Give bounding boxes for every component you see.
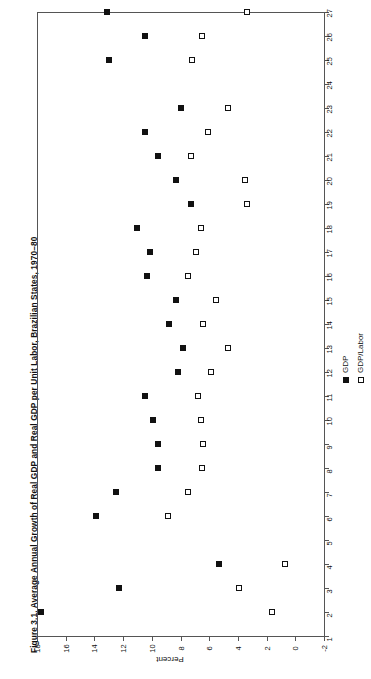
category-axis-label: 3 [325, 574, 334, 594]
category-axis-label: 17 [325, 238, 334, 258]
category-axis-label: 19 [325, 190, 334, 210]
data-point-gdp [175, 369, 181, 375]
data-point-gdplabor [225, 345, 231, 351]
value-axis-label: 16 [61, 634, 70, 664]
category-axis-label: 27 [325, 0, 334, 18]
data-point-gdplabor [185, 489, 191, 495]
value-axis-title: Percent [140, 655, 200, 664]
category-axis-label: 15 [325, 286, 334, 306]
data-point-gdplabor [198, 225, 204, 231]
data-point-gdplabor [198, 417, 204, 423]
data-point-gdp [178, 105, 184, 111]
legend-entry: GDP/Labor [351, 313, 363, 383]
category-axis-label: 8 [325, 454, 334, 474]
legend-swatch-gdplabor [358, 377, 364, 383]
data-point-gdplabor [236, 585, 242, 591]
value-axis-label: 12 [119, 634, 128, 664]
data-point-gdp [142, 129, 148, 135]
value-axis-label: 4 [233, 634, 242, 664]
data-point-gdplabor [225, 105, 231, 111]
data-point-gdplabor [244, 9, 250, 15]
data-point-gdp [116, 585, 122, 591]
data-point-gdp [188, 201, 194, 207]
category-axis-label: 26 [325, 22, 334, 42]
data-point-gdp [147, 249, 153, 255]
data-point-gdplabor [189, 57, 195, 63]
data-point-gdplabor [282, 561, 288, 567]
data-point-gdp [104, 9, 110, 15]
category-axis-label: 2 [325, 598, 334, 618]
data-point-gdplabor [200, 441, 206, 447]
value-axis-label: 18 [33, 634, 42, 664]
data-point-gdp [113, 489, 119, 495]
category-axis-label: 20 [325, 166, 334, 186]
legend-swatch-gdp [343, 377, 349, 383]
category-axis-label: 6 [325, 502, 334, 522]
category-axis-label: 9 [325, 430, 334, 450]
data-point-gdp [93, 513, 99, 519]
legend-entry: GDP [336, 313, 348, 383]
data-point-gdp [173, 177, 179, 183]
data-point-gdplabor [205, 129, 211, 135]
data-point-gdp [216, 561, 222, 567]
value-axis-label: 0 [291, 634, 300, 664]
axis-line-left [37, 12, 38, 636]
value-axis-label: 14 [90, 634, 99, 664]
value-axis-label: 2 [262, 634, 271, 664]
data-point-gdplabor [208, 369, 214, 375]
data-point-gdp [134, 225, 140, 231]
data-point-gdp [106, 57, 112, 63]
data-point-gdplabor [213, 297, 219, 303]
axis-line-top [37, 12, 325, 13]
category-axis-label: 5 [325, 526, 334, 546]
value-axis-label: 6 [205, 634, 214, 664]
category-axis-label: 4 [325, 550, 334, 570]
data-point-gdplabor [188, 153, 194, 159]
data-point-gdp [166, 321, 172, 327]
category-axis-label: 10 [325, 406, 334, 426]
data-point-gdplabor [242, 177, 248, 183]
data-point-gdp [173, 297, 179, 303]
data-point-gdp [150, 417, 156, 423]
category-axis-label: 25 [325, 46, 334, 66]
category-axis-label: 11 [325, 382, 334, 402]
data-point-gdplabor [195, 393, 201, 399]
data-point-gdplabor [199, 465, 205, 471]
category-axis-label: 18 [325, 214, 334, 234]
data-point-gdp [180, 345, 186, 351]
data-point-gdp [155, 153, 161, 159]
chart-legend: GDPGDP/Labor [336, 295, 370, 385]
category-axis-label: 23 [325, 94, 334, 114]
plot-area: 181614121086420-212345678910111213141516… [37, 12, 324, 636]
data-point-gdp [142, 33, 148, 39]
data-point-gdplabor [199, 33, 205, 39]
category-axis-label: 1 [325, 622, 334, 642]
category-axis-label: 7 [325, 478, 334, 498]
category-axis-label: 13 [325, 334, 334, 354]
data-point-gdp [142, 393, 148, 399]
legend-label: GDP/Labor [356, 333, 365, 373]
data-point-gdp [38, 609, 44, 615]
data-point-gdp [155, 465, 161, 471]
data-point-gdplabor [269, 609, 275, 615]
data-point-gdp [155, 441, 161, 447]
data-point-gdplabor [185, 273, 191, 279]
legend-label: GDP [341, 356, 350, 373]
data-point-gdplabor [165, 513, 171, 519]
category-axis-label: 21 [325, 142, 334, 162]
category-axis-label: 16 [325, 262, 334, 282]
data-point-gdplabor [244, 201, 250, 207]
data-point-gdp [144, 273, 150, 279]
category-axis-label: 14 [325, 310, 334, 330]
category-axis-label: 12 [325, 358, 334, 378]
category-axis-label: 22 [325, 118, 334, 138]
data-point-gdplabor [193, 249, 199, 255]
category-axis-label: 24 [325, 70, 334, 90]
data-point-gdplabor [200, 321, 206, 327]
